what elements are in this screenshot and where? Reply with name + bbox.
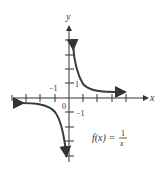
y-tick-neg1-label: −1 [76,109,85,118]
function-name: f(x) = [92,132,115,144]
reciprocal-function-graph: y x 0 −1 1 −1 f(x) = 1 x [0,0,162,172]
x-axis [12,94,146,102]
x-tick-neg1-label: −1 [49,84,58,93]
y-tick-pos1-label: 1 [75,80,79,89]
origin-label: 0 [62,102,66,111]
curve-negative-branch [19,103,66,152]
curve-positive-branch [73,45,121,92]
y-axis-label: y [65,11,71,22]
function-label: f(x) = 1 x [92,129,127,148]
fraction-denominator: x [119,139,124,148]
fraction-numerator: 1 [121,129,125,138]
x-axis-label: x [149,92,155,103]
